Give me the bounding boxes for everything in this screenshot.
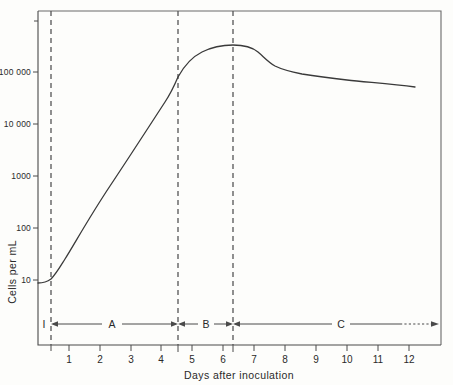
growth-curve-chart: 100 000 10 000 1000 100 10 Cells per mL: [0, 0, 453, 385]
phase-a-arrowhead-left: [51, 321, 58, 326]
phase-label-a: A: [108, 318, 115, 330]
x-axis-tick-labels: 1 2 3 4 5 6 7 8 9 10 11 12: [66, 354, 415, 365]
y-axis-title: Cells per mL: [6, 240, 18, 304]
x-tick-label-6: 6: [220, 354, 226, 365]
y-axis-ticks: [33, 21, 38, 280]
x-tick-label-5: 5: [189, 354, 195, 365]
y-tick-label-10: 10: [21, 275, 31, 285]
y-tick-label-1000: 1000: [11, 171, 31, 181]
growth-curve-line: [38, 45, 415, 283]
x-tick-label-4: 4: [158, 354, 164, 365]
x-tick-label-8: 8: [282, 354, 288, 365]
phase-b-arrowhead-left: [178, 321, 185, 326]
x-tick-label-11: 11: [373, 354, 384, 365]
y-tick-label-100: 100: [16, 223, 31, 233]
y-tick-label-100000: 100 000: [0, 67, 31, 77]
x-tick-label-9: 9: [313, 354, 319, 365]
phase-c-arrowhead-left: [233, 321, 240, 326]
x-tick-label-1: 1: [66, 354, 72, 365]
phase-a-arrowhead-right: [171, 321, 178, 326]
plot-frame: [38, 11, 441, 345]
x-tick-label-3: 3: [128, 354, 134, 365]
x-tick-label-10: 10: [341, 354, 353, 365]
frame-left-bottom: [38, 11, 441, 345]
chart-page: 100 000 10 000 1000 100 10 Cells per mL: [0, 0, 453, 385]
x-axis-title: Days after inoculation: [184, 369, 294, 381]
frame-top-right: [38, 11, 441, 345]
phase-label-i: I: [43, 318, 46, 330]
phase-annotations: I A B C: [43, 318, 439, 330]
phase-label-c: C: [337, 318, 345, 330]
x-tick-label-2: 2: [97, 354, 103, 365]
phase-c-arrowhead-right: [431, 321, 439, 326]
phase-boundary-markers: [51, 11, 233, 345]
y-tick-label-10000: 10 000: [4, 119, 31, 129]
x-tick-label-7: 7: [251, 354, 257, 365]
phase-label-b: B: [202, 318, 209, 330]
phase-b-arrowhead-right: [226, 321, 233, 326]
x-axis-ticks: [51, 345, 409, 352]
x-tick-label-12: 12: [403, 354, 415, 365]
